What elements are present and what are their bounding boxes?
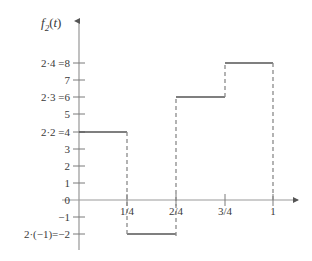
- y-tick-label-1: 1: [0, 178, 70, 189]
- x-tick-label-one: 1: [253, 206, 293, 217]
- x-tick-label-threequarter: 3/4: [205, 206, 245, 217]
- y-tick-label-2: 2: [0, 161, 70, 172]
- step-function-figure: f2(t)f2(t) 2·4 =8 7 2·3 =6 5 2·2 =4 3 2 …: [0, 0, 312, 261]
- y-tick-label-6: 2·3 =6: [0, 92, 70, 103]
- y-tick-label-4: 2·2 =4: [0, 127, 70, 138]
- y-tick-label-8: 2·4 =8: [0, 58, 70, 69]
- y-tick-label-neg2: 2·(−1)=−2: [0, 229, 70, 240]
- step-function-transitions: [127, 63, 273, 236]
- axis-title-arg: (t): [49, 15, 61, 30]
- y-tick-label-0: 0: [0, 195, 70, 206]
- x-tick-label-half: 2/4: [156, 206, 196, 217]
- y-axis-title: f2(t)f2(t): [41, 16, 61, 35]
- y-tick-label-neg1: −1: [0, 212, 70, 223]
- y-tick-label-3: 3: [0, 144, 70, 155]
- y-tick-label-5: 5: [0, 109, 70, 120]
- x-tick-label-quarter: 1/4: [107, 206, 147, 217]
- y-tick-label-7: 7: [0, 75, 70, 86]
